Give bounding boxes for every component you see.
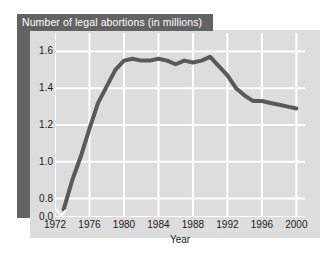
x-axis-tick-labels: 19721976198019841988199219962000 xyxy=(55,219,305,233)
x-tick-label: 1972 xyxy=(44,219,66,231)
chart-title: Number of legal abortions (in millions) xyxy=(17,14,213,31)
horizontal-gridlines xyxy=(55,51,305,217)
y-axis-tick-labels: 0.00.81.01.21.41.6 xyxy=(27,33,53,217)
x-tick-label: 1988 xyxy=(182,219,204,231)
plot-svg xyxy=(55,33,305,217)
y-tick-label: 1.4 xyxy=(29,83,53,93)
y-tick-label: 0.8 xyxy=(29,194,53,204)
x-tick-label: 1996 xyxy=(251,219,273,231)
y-tick-label: 1.6 xyxy=(29,46,53,56)
abortions-line-chart-figure: Number of legal abortions (in millions) … xyxy=(0,0,335,267)
x-axis-title: Year xyxy=(55,234,305,245)
y-axis-break-marker xyxy=(55,210,66,217)
x-tick-label: 2000 xyxy=(285,219,307,231)
y-tick-label: 1.0 xyxy=(29,157,53,167)
x-tick-label: 1992 xyxy=(216,219,238,231)
x-tick-label: 1976 xyxy=(78,219,100,231)
x-tick-label: 1980 xyxy=(113,219,135,231)
x-tick-label: 1984 xyxy=(147,219,169,231)
plot-area xyxy=(55,33,305,217)
y-tick-label: 1.2 xyxy=(29,120,53,130)
